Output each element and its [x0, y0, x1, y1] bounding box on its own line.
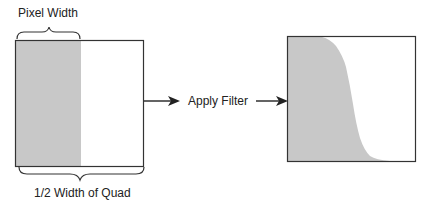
- apply-filter-label: Apply Filter: [188, 94, 248, 108]
- input-quad-fill: [16, 40, 81, 166]
- filtered-fill: [288, 37, 390, 161]
- bottom-brace: [19, 167, 144, 180]
- pixel-width-label: Pixel Width: [18, 6, 78, 20]
- top-brace: [17, 27, 80, 39]
- half-width-label: 1/2 Width of Quad: [34, 186, 131, 200]
